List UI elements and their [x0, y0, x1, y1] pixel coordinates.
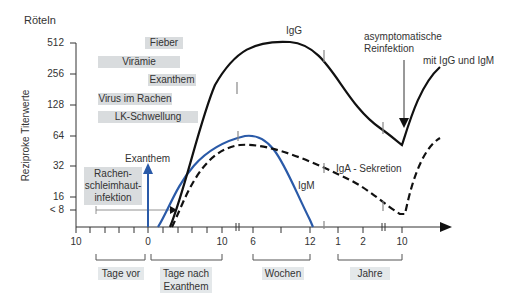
reinfection-label-1: asymptomatische [364, 31, 442, 43]
chart-title: Röteln [24, 14, 56, 26]
ytick-16: 16 [34, 191, 64, 202]
xtick-after-10: 10 [212, 236, 232, 247]
igm-curve [158, 136, 313, 227]
exanthem-arrow-label: Exanthem [125, 153, 170, 165]
y-axis [70, 43, 76, 227]
xtick-year-2: 2 [353, 236, 373, 247]
xtick-0: 0 [138, 236, 158, 247]
symptom-exanthem: Exanthem [148, 74, 196, 86]
rachen-line-2: schleimhaut- [84, 180, 142, 192]
segment-wochen: Wochen [262, 267, 304, 280]
xtick-year-1: 1 [328, 236, 348, 247]
symptom-virus-rachen: Virus im Rachen [98, 93, 172, 105]
ytick-32: 32 [34, 160, 64, 171]
ytick-64: 64 [34, 130, 64, 141]
ytick-256: 256 [34, 68, 64, 79]
igg-curve [170, 42, 440, 227]
rachen-line-3: infektion [84, 192, 142, 204]
segment-tage-vor: Tage vor [98, 267, 144, 280]
xtick-before-10: 10 [66, 236, 86, 247]
x-axis-arrow-icon [440, 222, 452, 232]
segment-jahre: Jahre [350, 267, 390, 280]
xtick-week-6: 6 [243, 236, 263, 247]
igg-label: IgG [286, 25, 302, 37]
igm-label: IgM [298, 180, 315, 192]
xtick-week-12: 12 [300, 236, 320, 247]
iga-label: IgA - Sekretion [336, 163, 402, 175]
ytick-128: 128 [34, 99, 64, 110]
igg-igm-label: mit IgG und IgM [423, 55, 494, 67]
reinfection-label-2: Reinfektion [364, 43, 414, 55]
segment-tage-nach-line1: Tage nach [160, 267, 212, 280]
segment-tage-nach: Tage nach Exanthem [160, 267, 212, 293]
rachen-range-line [96, 206, 170, 214]
segment-brackets [96, 254, 402, 260]
symptom-lk-schwellung: LK-Schwellung [98, 111, 198, 123]
curve-break-marks [237, 50, 383, 229]
ytick-8: < 8 [34, 204, 64, 215]
ytick-512: 512 [34, 37, 64, 48]
y-axis-label: Reziproke Titerwerte [20, 81, 31, 191]
symptom-viraemie: Virämie [98, 56, 180, 68]
xtick-year-10: 10 [392, 236, 412, 247]
x-axis [76, 222, 440, 233]
rachen-line-1: Rachen- [84, 168, 142, 180]
rachen-infection-box: Rachen- schleimhaut- infektion [84, 167, 142, 205]
symptom-fieber: Fieber [145, 37, 183, 49]
chart-canvas [0, 0, 507, 308]
segment-tage-nach-line2: Exanthem [160, 280, 212, 293]
